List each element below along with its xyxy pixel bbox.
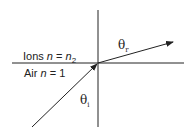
refracted-angle-label: θr bbox=[118, 39, 129, 56]
upper-medium-label: Ions n = n2 bbox=[23, 51, 76, 66]
incident-angle-label: θi bbox=[80, 94, 89, 111]
refracted-ray-arrow bbox=[98, 42, 173, 63]
lower-medium-label: Air n = 1 bbox=[24, 68, 65, 79]
